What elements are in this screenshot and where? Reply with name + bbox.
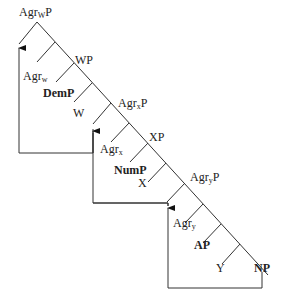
tree-spine	[37, 22, 268, 275]
node-demp: DemP	[43, 86, 74, 100]
node-agrwp: AgrWP	[19, 5, 52, 20]
tree-branches	[19, 22, 240, 264]
node-agryp: AgryP	[190, 170, 220, 185]
node-np: NP	[254, 261, 270, 275]
syntax-tree-diagram: AgrWP WP Agrw DemP W AgrxP XP Agrx NumP …	[0, 0, 282, 303]
node-w: W	[73, 106, 85, 120]
node-wp: WP	[75, 53, 93, 67]
node-nump: NumP	[114, 163, 147, 177]
node-agrw: Agrw	[23, 69, 48, 84]
node-ap: AP	[194, 238, 210, 252]
node-agrx: Agrx	[100, 142, 123, 157]
node-agry: Agry	[173, 216, 196, 231]
node-y: Y	[216, 261, 225, 275]
node-xp: XP	[149, 130, 165, 144]
node-x: X	[138, 176, 147, 190]
node-agrxp: AgrxP	[118, 96, 148, 111]
